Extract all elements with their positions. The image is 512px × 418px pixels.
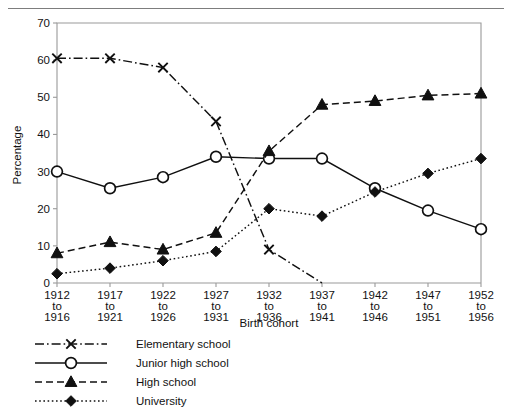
y-tick-label: 10 [37, 240, 50, 252]
data-point-marker [65, 376, 77, 387]
data-point-marker [66, 358, 77, 369]
y-tick-label: 20 [37, 203, 50, 215]
legend-label: University [136, 395, 187, 407]
legend-label: Junior high school [136, 357, 229, 369]
series-line [57, 157, 481, 229]
data-point-marker [104, 236, 116, 247]
series-line [57, 159, 481, 274]
data-point-marker [211, 151, 222, 162]
series-line [57, 58, 322, 283]
data-point-marker [476, 153, 487, 164]
y-tick-label: 70 [37, 17, 50, 29]
data-point-marker [263, 145, 275, 156]
series-high-school [51, 87, 487, 257]
data-point-marker [317, 153, 328, 164]
data-point-marker [52, 166, 63, 177]
series-junior-high-school [52, 151, 487, 234]
x-axis-ticks [57, 283, 481, 287]
figure-container: 010203040506070 1912to19161917to19211922… [0, 0, 512, 418]
y-tick-label: 30 [37, 166, 50, 178]
data-point-marker [158, 172, 169, 183]
legend-item-junior-high-school[interactable]: Junior high school [35, 357, 229, 369]
y-tick-label: 40 [37, 128, 50, 140]
x-tick-label: 1916 [44, 311, 70, 323]
data-point-marker [317, 211, 328, 222]
legend-item-elementary-school[interactable]: Elementary school [35, 338, 231, 350]
line-chart: 010203040506070 1912to19161917to19211922… [0, 0, 512, 418]
x-tick-label: 1926 [150, 311, 176, 323]
data-point-marker [211, 246, 222, 257]
data-point-marker [475, 87, 487, 98]
y-tick-label: 50 [37, 91, 50, 103]
data-point-marker [105, 263, 116, 274]
data-point-marker [476, 224, 487, 235]
data-point-marker [105, 183, 116, 194]
data-point-marker [66, 396, 77, 407]
data-point-marker [264, 245, 273, 254]
legend-label: High school [136, 376, 196, 388]
legend-label: Elementary school [136, 338, 231, 350]
header-divider [8, 8, 504, 9]
data-point-marker [211, 117, 220, 126]
y-tick-label: 60 [37, 54, 50, 66]
y-axis-title: Percentage [11, 126, 23, 185]
x-axis-title: Birth cohort [240, 317, 300, 329]
legend-item-university[interactable]: University [35, 395, 187, 407]
y-tick-label: 0 [44, 277, 50, 289]
data-point-marker [423, 168, 434, 179]
x-tick-label: 1931 [203, 311, 229, 323]
data-point-marker [423, 205, 434, 216]
data-point-marker [52, 268, 63, 279]
data-point-marker [210, 227, 222, 238]
legend-item-high-school[interactable]: High school [35, 376, 196, 388]
y-axis-tick-labels: 010203040506070 [37, 17, 50, 289]
x-tick-label: 1951 [415, 311, 441, 323]
chart-legend: Elementary schoolJunior high schoolHigh … [35, 338, 231, 407]
x-tick-label: 1946 [362, 311, 388, 323]
x-tick-label: 1921 [97, 311, 123, 323]
series-line [57, 94, 481, 254]
data-point-marker [158, 255, 169, 266]
data-series-group [51, 54, 487, 283]
x-tick-label: 1956 [468, 311, 494, 323]
x-tick-label: 1941 [309, 311, 335, 323]
series-university [52, 153, 487, 279]
